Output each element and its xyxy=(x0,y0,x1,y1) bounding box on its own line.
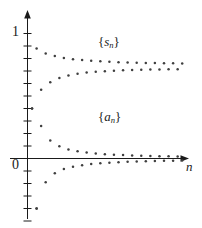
data-point-an xyxy=(154,160,157,163)
an-subscript: n xyxy=(111,115,115,125)
data-point-an xyxy=(122,154,125,157)
figure-container: 1 0 n {sn} {an} xyxy=(0,0,202,228)
data-point-outlier xyxy=(35,207,38,210)
series-label-sn: {sn} xyxy=(98,35,120,48)
data-point-an xyxy=(95,152,98,155)
data-point-sn xyxy=(58,77,61,80)
data-point-an xyxy=(113,153,116,156)
series-label-an: {an} xyxy=(98,110,121,123)
series-sn-points xyxy=(31,47,184,110)
data-point-sn xyxy=(99,60,102,63)
data-point-an xyxy=(44,181,47,184)
data-point-an xyxy=(63,168,66,171)
data-point-sn xyxy=(181,62,184,65)
data-point-an xyxy=(176,155,179,158)
data-point-sn xyxy=(140,69,143,72)
data-point-sn xyxy=(49,81,52,84)
sn-subscript: n xyxy=(109,40,113,50)
data-point-sn xyxy=(117,61,120,64)
data-point-sn xyxy=(131,69,134,72)
x-axis-label-n: n xyxy=(186,160,193,173)
data-point-an xyxy=(108,161,111,164)
data-point-sn xyxy=(67,74,70,77)
data-point-sn xyxy=(113,69,116,72)
data-point-an xyxy=(172,159,175,162)
data-point-an xyxy=(54,172,57,175)
data-point-sn xyxy=(95,71,98,74)
data-point-sn xyxy=(54,55,57,58)
data-point-an xyxy=(40,125,43,128)
data-point-sn xyxy=(72,58,75,61)
data-point-sn xyxy=(76,73,79,76)
y-axis xyxy=(24,10,32,228)
data-point-sn xyxy=(81,59,84,62)
data-point-sn xyxy=(149,68,152,71)
data-point-an xyxy=(31,107,34,110)
data-point-sn xyxy=(163,62,166,65)
x-axis xyxy=(10,155,189,162)
data-point-an xyxy=(167,155,170,158)
an-close-brace: } xyxy=(115,109,121,124)
data-point-sn xyxy=(172,62,175,65)
data-point-an xyxy=(90,163,93,166)
data-point-sn xyxy=(85,71,88,74)
data-point-sn xyxy=(176,68,179,71)
data-point-an xyxy=(81,164,84,167)
data-point-an xyxy=(49,139,52,142)
data-point-sn xyxy=(122,69,125,72)
data-point-sn xyxy=(126,61,129,64)
data-point-an xyxy=(126,161,129,164)
an-symbol: a xyxy=(104,109,111,124)
data-point-sn xyxy=(135,61,138,64)
data-point-an xyxy=(158,155,161,158)
data-point-an xyxy=(181,159,184,162)
data-point-sn xyxy=(63,57,66,60)
data-point-sn xyxy=(104,70,107,73)
data-point-an xyxy=(163,160,166,163)
sn-close-brace: } xyxy=(114,34,120,49)
data-point-an xyxy=(104,153,107,156)
data-point-sn xyxy=(44,52,47,55)
data-point-an xyxy=(85,151,88,154)
data-point-sn xyxy=(40,89,43,92)
series-outlier-points xyxy=(35,207,38,210)
data-point-sn xyxy=(35,47,38,50)
data-point-sn xyxy=(167,68,170,71)
data-point-an xyxy=(131,154,134,157)
data-point-an xyxy=(58,145,61,148)
y-tick-label-one: 1 xyxy=(12,25,19,39)
data-point-an xyxy=(76,150,79,153)
data-point-sn xyxy=(145,62,148,65)
data-point-an xyxy=(117,161,120,164)
origin-label-zero: 0 xyxy=(12,158,19,172)
data-point-an xyxy=(99,162,102,165)
data-point-an xyxy=(67,148,70,151)
y-axis-arrowhead xyxy=(24,10,31,19)
data-point-sn xyxy=(158,68,161,71)
data-point-an xyxy=(145,160,148,163)
data-point-an xyxy=(149,155,152,158)
data-point-an xyxy=(140,154,143,157)
data-point-an xyxy=(72,165,75,168)
data-point-an xyxy=(135,160,138,163)
data-point-sn xyxy=(90,59,93,62)
data-point-sn xyxy=(108,61,111,64)
data-point-sn xyxy=(154,62,157,65)
